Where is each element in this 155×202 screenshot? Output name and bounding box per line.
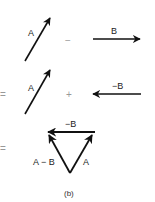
figure-caption: (b) [64, 189, 74, 198]
vector-b-label: B [111, 26, 117, 36]
row-1: A − B [25, 18, 140, 61]
vector-neg-b-label: −B [112, 81, 123, 91]
vector-a-arrow [25, 18, 50, 61]
a-minus-b-label: A − B [33, 157, 55, 167]
vector-a-label: A [28, 28, 34, 38]
right-a-label: A [83, 157, 89, 167]
top-neg-b-label: −B [65, 119, 76, 129]
row-2: = A + −B [0, 70, 141, 114]
equals-sign: = [0, 89, 6, 100]
row-3-triangle: = −B A − B A [0, 119, 95, 173]
equals-sign: = [0, 143, 6, 154]
vector-a-label: A [28, 83, 34, 93]
minus-operator: − [65, 35, 71, 46]
right-a-arrow [70, 135, 92, 173]
plus-operator: + [66, 89, 72, 100]
vector-subtraction-diagram: A − B = A + −B = −B A − B A (b) [0, 0, 155, 202]
a-minus-b-arrow [49, 135, 70, 173]
